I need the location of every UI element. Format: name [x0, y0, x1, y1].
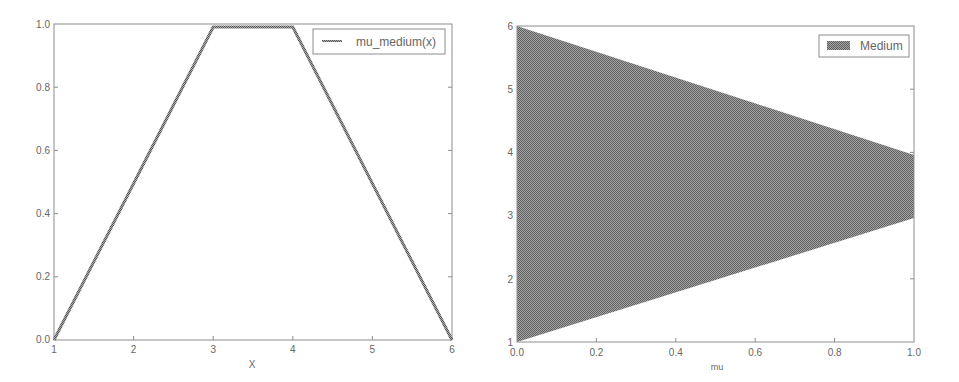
legend-fill-swatch-icon — [827, 41, 850, 50]
x-axis-label: X — [249, 359, 256, 370]
x-tick-label: 5 — [370, 344, 376, 355]
tick-marks — [54, 87, 452, 340]
legend: mu_medium(x) — [313, 29, 445, 54]
x-tick-label: 2 — [131, 344, 137, 355]
x-tick-label: 0.2 — [589, 347, 603, 358]
plot-frame — [54, 24, 452, 340]
x-tick-label: 4 — [290, 344, 296, 355]
mu-medium-line — [54, 27, 452, 340]
alpha-cut-chart: 1 2 3 4 5 6 0.0 0.2 0.4 0.6 0.8 1.0 mu M… — [480, 0, 959, 382]
x-tick-label: 1.0 — [907, 347, 921, 358]
x-tick-label: 0.0 — [510, 347, 524, 358]
y-tick-label: 4 — [507, 147, 513, 158]
x-tick-label: 3 — [210, 344, 216, 355]
left-chart-svg: 0.0 0.2 0.4 0.6 0.8 1.0 1 2 3 4 5 6 X mu… — [0, 0, 480, 382]
x-tick-label: 1 — [51, 344, 57, 355]
y-tick-label: 5 — [507, 84, 513, 95]
y-tick-label: 0.4 — [36, 208, 50, 219]
y-tick-label: 2 — [507, 274, 513, 285]
y-tick-label: 0.2 — [36, 271, 50, 282]
right-chart-svg: 1 2 3 4 5 6 0.0 0.2 0.4 0.6 0.8 1.0 mu M… — [480, 0, 959, 382]
legend-label: Medium — [860, 39, 903, 53]
y-tick-label: 6 — [507, 21, 513, 32]
x-tick-label: 6 — [449, 344, 455, 355]
membership-function-chart: 0.0 0.2 0.4 0.6 0.8 1.0 1 2 3 4 5 6 X mu… — [0, 0, 480, 382]
x-tick-label: 0.6 — [748, 347, 762, 358]
x-axis-label: mu — [711, 362, 724, 372]
x-tick-label: 0.8 — [828, 347, 842, 358]
y-tick-label: 0.0 — [36, 334, 50, 345]
medium-fill-region — [517, 26, 914, 342]
legend: Medium — [819, 35, 909, 57]
y-tick-label: 3 — [507, 210, 513, 221]
y-tick-label: 1.0 — [36, 19, 50, 30]
x-tick-label: 0.4 — [669, 347, 683, 358]
y-tick-label: 0.8 — [36, 82, 50, 93]
y-tick-label: 0.6 — [36, 145, 50, 156]
legend-label: mu_medium(x) — [356, 35, 436, 49]
